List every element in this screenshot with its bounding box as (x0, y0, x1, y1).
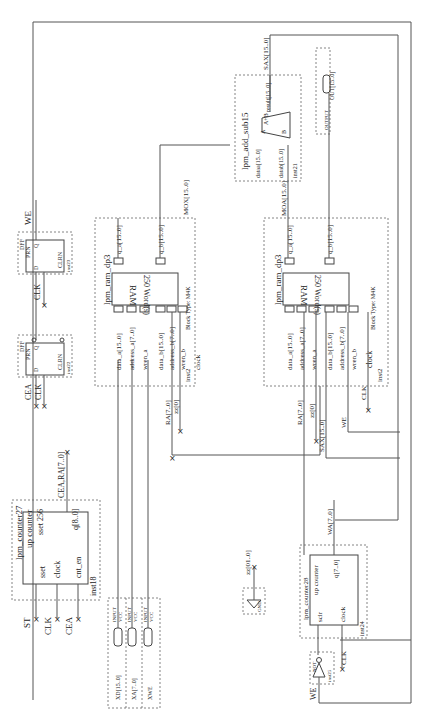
svg-text:address_b[7..0]: address_b[7..0] (338, 327, 346, 370)
svg-text:Q: Q (33, 243, 39, 248)
svg-text:clock: clock (365, 351, 374, 368)
svg-text:RA[7..0]: RA[7..0] (296, 400, 304, 425)
svg-text:inst18: inst18 (89, 576, 98, 596)
pin-out: OUT[15..0] (329, 72, 336, 100)
input-pins-block: INPUT VCC INPUT VCC INPUT VCC XD[15..0] … (108, 360, 160, 708)
svg-text:q_b[15..0]: q_b[15..0] (326, 225, 334, 254)
net-moa: MOA[15..0] (280, 181, 288, 216)
svg-text:×: × (33, 402, 40, 411)
svg-text:address_a[7..0]: address_a[7..0] (128, 327, 136, 370)
svg-text:PRN: PRN (25, 246, 31, 258)
svg-text:VCC: VCC (118, 611, 123, 622)
gnd-block: GND zz[01..0] × (243, 550, 265, 614)
svg-text:CEA: CEA (24, 384, 33, 400)
dff-top: DFF PRN D Q CLRN inst23 WE CLK × (18, 200, 72, 340)
svg-text:CLK: CLK (340, 651, 348, 665)
svg-text:×: × (64, 448, 71, 457)
svg-text:zz[0]: zz[0] (308, 404, 316, 418)
net-sax: SAX[15..0] (262, 37, 270, 70)
svg-text:CLK: CLK (360, 386, 368, 400)
svg-text:datab[15..0]: datab[15..0] (278, 149, 285, 178)
svg-text:WE: WE (309, 687, 318, 700)
svg-text:×: × (365, 406, 372, 415)
svg-text:data_b[15..0]: data_b[15..0] (326, 333, 334, 370)
svg-text:CLK: CLK (34, 384, 43, 400)
svg-text:dataa[15..0]: dataa[15..0] (255, 149, 262, 178)
input-clk: CLK (43, 616, 53, 635)
svg-text:INPUT: INPUT (112, 607, 117, 622)
counter27-block: lpm_counter27 up counter sset 256 sset c… (12, 448, 100, 635)
schematic-canvas: lpm_counter27 up counter sset 256 sset c… (0, 0, 432, 720)
svg-text:wren_a: wren_a (141, 349, 149, 370)
svg-text:Block Type: M4K: Block Type: M4K (370, 286, 376, 330)
svg-text:clock: clock (194, 354, 202, 370)
svg-text:inst2: inst2 (376, 368, 384, 382)
addsub-block: lpm_add_sub15 A+B A B dataa[15..0] datab… (235, 37, 301, 181)
svg-text:data_b[15..0]: data_b[15..0] (157, 333, 165, 370)
not-gate: NOT inst25 WE (309, 640, 411, 703)
svg-text:inst2: inst2 (184, 368, 192, 382)
net-mox: MOX[15..0] (182, 180, 190, 215)
counter28-block: lpm_counter28 up counter sclr clock q[7.… (300, 500, 367, 674)
svg-text:address_a[7..0]: address_a[7..0] (298, 327, 306, 370)
svg-text:inst23: inst23 (66, 259, 71, 272)
svg-text:×: × (251, 563, 258, 572)
svg-text:up counter: up counter (24, 510, 34, 548)
svg-text:×: × (41, 402, 48, 411)
ram-right-block: lpm_ram_dp3 RAM 250 Word(s) data_a[15..0… (264, 145, 400, 555)
svg-text:wren_b: wren_b (350, 349, 358, 370)
svg-text:inst22: inst22 (66, 361, 71, 374)
svg-text:cnt_en: cnt_en (74, 557, 83, 578)
svg-text:lpm_ram_dp3: lpm_ram_dp3 (102, 254, 112, 305)
svg-text:inst25: inst25 (327, 669, 332, 682)
svg-text:GND: GND (257, 601, 262, 612)
svg-text:result[15..0]: result[15..0] (265, 83, 272, 112)
svg-text:Block Type: M4K: Block Type: M4K (185, 286, 191, 330)
svg-text:clock: clock (339, 606, 347, 622)
svg-text:CLRN: CLRN (57, 251, 63, 268)
svg-text:q_a[15..0]: q_a[15..0] (115, 225, 123, 254)
svg-text:D: D (33, 367, 39, 372)
svg-text:×: × (41, 301, 48, 310)
svg-text:INPUT: INPUT (143, 607, 148, 622)
svg-text:×: × (169, 454, 176, 463)
svg-text:×: × (54, 615, 61, 624)
svg-text:A: A (260, 129, 266, 134)
svg-text:×: × (33, 615, 40, 624)
dff-bottom: DFF PRN D Q CLRN inst22 CEA CLK × × (18, 335, 72, 411)
svg-text:INPUT: INPUT (127, 607, 132, 622)
input-cea: CEA (64, 616, 74, 635)
svg-text:data_a[15..0]: data_a[15..0] (286, 333, 294, 370)
output-pin-block: OUTPUT OUT[15..0] (316, 48, 336, 150)
pin-xwe: XWE (147, 686, 153, 700)
svg-text:clock: clock (53, 561, 62, 578)
svg-text:B: B (281, 130, 287, 134)
svg-text:VCC: VCC (149, 611, 154, 622)
counter27-name: lpm_counter27 (14, 505, 24, 560)
svg-text:×: × (339, 665, 346, 674)
svg-text:×: × (75, 615, 82, 624)
svg-text:×: × (177, 427, 184, 436)
svg-text:Q: Q (33, 345, 39, 350)
svg-text:q_a[15..0]: q_a[15..0] (286, 225, 294, 254)
svg-text:250 Word(s): 250 Word(s) (142, 275, 151, 315)
counter27-output-net: CEA,RA[7..0] (57, 451, 66, 498)
svg-text:lpm_add_sub15: lpm_add_sub15 (240, 112, 250, 170)
svg-text:WE: WE (340, 417, 348, 428)
svg-text:sset 256: sset 256 (36, 509, 45, 535)
svg-text:q_b[15..0]: q_b[15..0] (157, 225, 165, 254)
svg-text:wren_a: wren_a (310, 349, 318, 370)
svg-text:VCC: VCC (133, 611, 138, 622)
input-st: ST (22, 617, 32, 628)
svg-text:OUTPUT: OUTPUT (324, 110, 329, 130)
pin-xa: XA[7..0] (131, 678, 138, 700)
net-wa: WA[7..0] (326, 509, 334, 535)
svg-text:NOT: NOT (312, 662, 317, 672)
svg-text:RAM: RAM (128, 285, 138, 306)
svg-text:A+B: A+B (263, 113, 269, 125)
pin-xd: XD[15..0] (115, 675, 122, 700)
svg-text:RA[7..0]: RA[7..0] (164, 400, 172, 425)
svg-text:lpm_ram_dp3: lpm_ram_dp3 (273, 254, 283, 305)
svg-text:inst21: inst21 (292, 163, 298, 178)
svg-text:zz[0]: zz[0] (172, 400, 180, 414)
